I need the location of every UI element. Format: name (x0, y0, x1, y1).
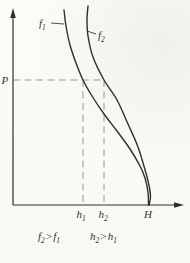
f1-leader-line (51, 23, 64, 24)
curve-f1 (64, 10, 149, 205)
relation-f2-gt-f1: f2>f1 (38, 230, 60, 245)
figure-canvas: f1 f2 P h1 h2 H f2>f1 h2>h1 (0, 0, 190, 263)
curve-f2 (87, 6, 151, 205)
curve-f1-label: f1 (39, 17, 46, 32)
tick-h2-label: h2 (98, 208, 108, 223)
tick-h1-label: h1 (76, 208, 85, 223)
guides-layer (13, 80, 104, 204)
curve-f2-label: f2 (98, 29, 105, 44)
curves-layer (64, 6, 151, 205)
tick-H-label: H (143, 208, 153, 220)
pressure-level-label: P (1, 74, 9, 86)
y-axis-arrow-icon (10, 8, 16, 18)
pressure-height-curves-figure: f1 f2 P h1 h2 H f2>f1 h2>h1 (0, 0, 190, 263)
x-axis-arrow-icon (174, 202, 184, 208)
relation-h2-gt-h1: h2>h1 (90, 230, 117, 245)
